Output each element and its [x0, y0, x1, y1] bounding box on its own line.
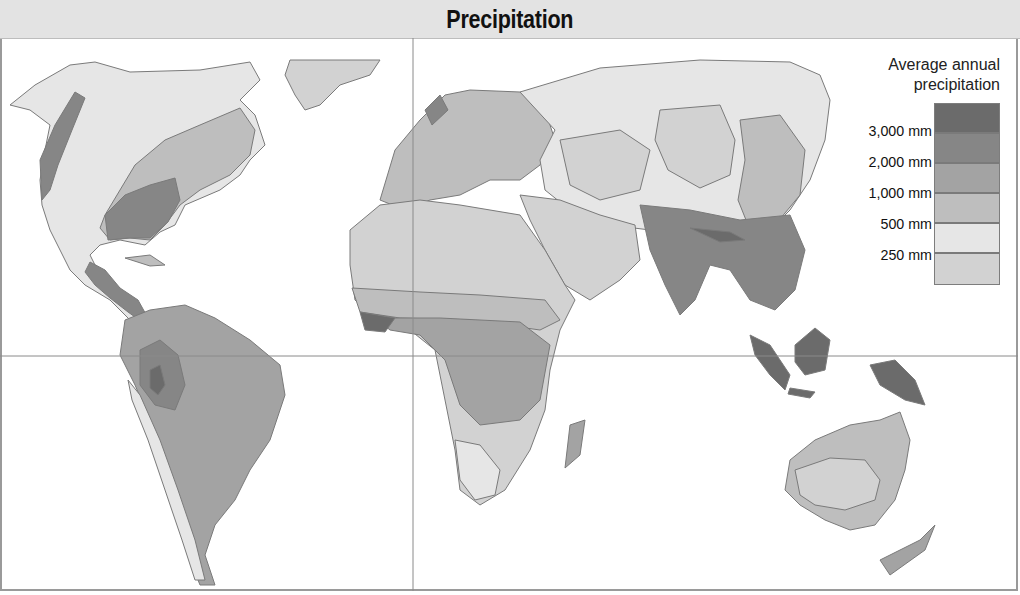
- java: [788, 388, 815, 398]
- title-bar: Precipitation: [0, 0, 1020, 39]
- borneo: [795, 328, 830, 375]
- swatch-2000-3000: [935, 134, 999, 164]
- swatch-over-3000: [935, 104, 999, 134]
- cuba: [125, 255, 165, 266]
- swatch-500-1000: [935, 194, 999, 224]
- legend-label-2000: 2,000 mm: [869, 153, 932, 171]
- madagascar: [565, 420, 585, 468]
- greenland: [285, 60, 380, 110]
- legend-label-1000: 1,000 mm: [869, 184, 932, 202]
- legend-label-500: 500 mm: [880, 215, 932, 233]
- legend-label-3000: 3,000 mm: [869, 122, 932, 140]
- legend-body: 3,000 mm 2,000 mm 1,000 mm 500 mm 250 mm: [848, 103, 1008, 293]
- swatch-250-500: [935, 224, 999, 254]
- new-guinea: [870, 360, 925, 405]
- europe: [380, 90, 555, 210]
- legend: Average annual precipitation 3,000 mm 2,…: [848, 55, 1008, 293]
- swatch-under-250: [935, 254, 999, 284]
- map-title: Precipitation: [447, 5, 574, 34]
- central-america: [85, 262, 148, 322]
- legend-label-250: 250 mm: [880, 246, 932, 264]
- new-zealand: [880, 525, 935, 575]
- swatch-1000-2000: [935, 164, 999, 194]
- sumatra: [750, 335, 790, 390]
- legend-title: Average annual precipitation: [848, 55, 1008, 95]
- south-america: [120, 305, 285, 585]
- legend-swatches: [934, 103, 1000, 285]
- south-asia: [640, 205, 805, 315]
